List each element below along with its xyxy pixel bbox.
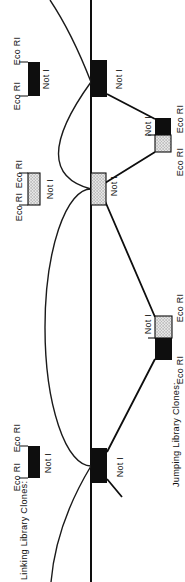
eco-ri-label: Eco RI: [12, 463, 22, 492]
ecori-fragment-arcs: [45, 0, 91, 582]
jumping-clone-connector-lines: [105, 94, 155, 497]
not-i-label: Not I: [41, 69, 51, 89]
notI-site-middle: [91, 173, 106, 205]
not-i-label: Not I: [115, 457, 125, 477]
eco-ri-label: Eco RI: [175, 148, 185, 177]
linking-jumping-library-diagram: Linking Library Clones: Jumping Library …: [0, 0, 185, 582]
notI-site-left: [91, 448, 107, 483]
eco-ri-label: Eco RI: [175, 105, 185, 134]
eco-ri-label: Eco RI: [12, 82, 22, 111]
eco-ri-label: Eco RI: [12, 37, 22, 66]
linking-clone-middle-box: [28, 173, 40, 205]
linking-clone-right-box: [28, 62, 40, 96]
jumping-library-clones-label: Jumping Library Clones:: [171, 382, 181, 487]
jumping-clone-left-black-segment: [155, 338, 172, 360]
eco-ri-label: Eco RI: [12, 424, 22, 453]
not-i-label: Not I: [109, 176, 119, 196]
eco-ri-label: Eco RI: [175, 294, 185, 323]
eco-ri-label: Eco RI: [14, 193, 24, 222]
not-i-label: Not I: [114, 69, 124, 89]
jumping-clone-right-black-segment: [155, 118, 171, 135]
eco-ri-label: Eco RI: [175, 356, 185, 385]
figure-canvas: Linking Library Clones: Jumping Library …: [0, 0, 185, 582]
notI-site-right: [91, 60, 107, 97]
not-i-label: Not I: [143, 314, 153, 334]
eco-ri-label: Eco RI: [14, 160, 24, 189]
linking-clone-right: [19, 62, 40, 96]
not-i-label: Not I: [45, 179, 55, 199]
linking-library-clones-label: Linking Library Clones:: [19, 481, 29, 580]
linking-clone-left: [19, 446, 40, 478]
jumping-clone-left-stipple-segment: [155, 316, 172, 338]
jumping-clone-right-stipple-segment: [155, 135, 171, 152]
rotated-diagram-wrapper: Linking Library Clones: Jumping Library …: [0, 0, 185, 582]
not-i-label: Not I: [143, 116, 153, 136]
linking-clone-left-box: [28, 446, 40, 478]
not-i-label: Not I: [43, 453, 53, 473]
